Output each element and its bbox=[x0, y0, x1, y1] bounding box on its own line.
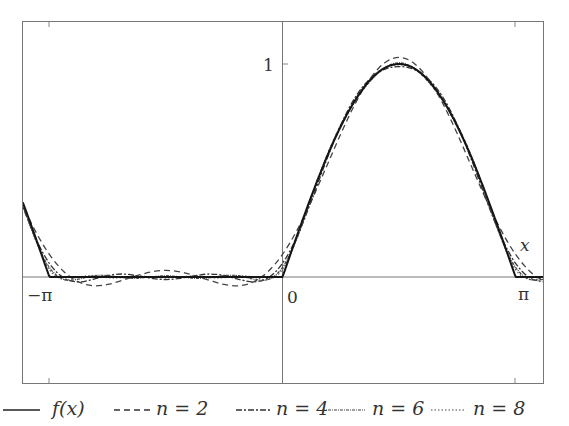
legend-label-n4: n = 4 bbox=[276, 397, 328, 419]
legend-item-n8: n = 8 bbox=[431, 394, 525, 422]
legend-item-n4: n = 4 bbox=[236, 394, 328, 422]
legend-item-fx: f(x) bbox=[3, 394, 85, 422]
legend-label-n2: n = 2 bbox=[156, 397, 208, 419]
plot-area: −π 0 π 1 x bbox=[0, 0, 569, 394]
tick-label-one: 1 bbox=[263, 55, 274, 75]
legend-label-n6: n = 6 bbox=[372, 397, 424, 419]
legend-item-n6: n = 6 bbox=[322, 394, 424, 422]
legend-label-n8: n = 8 bbox=[473, 397, 525, 419]
tick-label-zero: 0 bbox=[287, 287, 298, 307]
legend-swatch-solid bbox=[3, 402, 41, 414]
tick-label-pi: π bbox=[518, 284, 529, 304]
tick-label-neg-pi: −π bbox=[27, 285, 52, 305]
x-axis-label: x bbox=[520, 235, 530, 255]
legend-label-fx: f(x) bbox=[52, 397, 85, 419]
legend: f(x) n = 2 n = 4 n = 6 n = 8 bbox=[0, 394, 569, 422]
legend-item-n2: n = 2 bbox=[114, 394, 208, 422]
legend-swatch-dotted bbox=[431, 402, 467, 414]
legend-swatch-dashed bbox=[114, 402, 152, 414]
series-f-x bbox=[23, 64, 545, 277]
legend-swatch-dash-dot bbox=[236, 402, 272, 414]
legend-swatch-dense-dotted bbox=[322, 402, 366, 414]
